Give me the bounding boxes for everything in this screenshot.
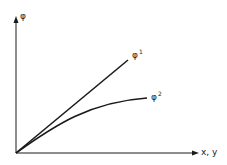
phi2-superscript: 2 bbox=[158, 90, 162, 97]
phi1-superscript: 1 bbox=[139, 48, 143, 55]
phi1-label: φ1 bbox=[132, 51, 143, 60]
phi2-label: φ2 bbox=[151, 93, 162, 102]
curve-phi2 bbox=[16, 98, 147, 153]
phi2-symbol: φ bbox=[151, 92, 157, 102]
y-axis-label: φ bbox=[20, 12, 26, 21]
x-axis-arrow-icon bbox=[192, 151, 199, 156]
y-axis-arrow-icon bbox=[14, 16, 19, 23]
diagram-canvas bbox=[0, 0, 227, 165]
x-axis-label: x, y bbox=[201, 148, 217, 157]
curve-phi1 bbox=[16, 60, 128, 153]
phi1-symbol: φ bbox=[132, 50, 138, 60]
